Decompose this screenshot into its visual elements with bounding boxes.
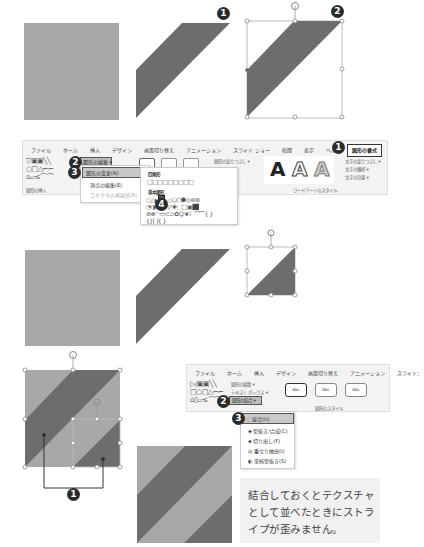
text-fill-button[interactable]: 文字の塗りつぶし ▾ — [345, 158, 381, 164]
shape-style-abc-3[interactable]: Abc — [345, 383, 367, 397]
tab-home-2[interactable]: ホーム — [221, 366, 248, 380]
tab-slideshow[interactable]: スライド ショー — [227, 143, 276, 157]
step-badge-1: 1 — [217, 7, 230, 20]
step-badge-2: 2 — [331, 5, 344, 18]
shape-styles-group-label: 図形のスタイル — [315, 405, 343, 411]
shape-gallery-flyout: 四角形 □□□□□□□□□ 基本図形 ○△◣▱⏢◇⬠⬡⯃◎⊚⊛ ◔◑▯▭⌐◸✚⬚… — [140, 167, 238, 225]
tab-transitions-2[interactable]: 画面切り替え — [302, 366, 344, 380]
wordart-gallery[interactable]: A A A — [264, 156, 334, 184]
text-outline-button[interactable]: 文字の輪郭 ▾ — [345, 166, 369, 172]
merge-shapes-dropdown: ◌ 接合(U) ◈ 型抜き/合成(C) ◈ 切り出し(F) ◎ 重なり抽出(I)… — [240, 411, 295, 469]
tab-review[interactable]: 校閲 — [276, 143, 298, 157]
rectangles-header: 四角形 — [148, 171, 160, 177]
text-box-button[interactable]: テキスト ボックス ▾ — [231, 389, 268, 395]
insert-shapes-group-label: 図形の挿入 — [26, 187, 46, 193]
shape-style-abc-1[interactable]: Abc — [285, 383, 307, 397]
composite-stripe-square[interactable] — [18, 350, 128, 500]
step-badge-3-union: 3 — [232, 412, 245, 425]
subtract-label: 単純型抜き(S) — [254, 458, 286, 464]
wordart-style-black[interactable]: A — [270, 157, 285, 181]
basic-shapes-row4[interactable]: {}[ ]{ } — [146, 217, 166, 225]
shape-style-abc-2[interactable]: Abc — [315, 383, 337, 397]
tab-animations-2[interactable]: アニメーション — [344, 366, 391, 380]
tab-shape-format[interactable]: 図形の書式 — [347, 144, 382, 157]
reroute-connectors-menu-item[interactable]: コネクタの再接続(R) — [87, 190, 137, 201]
caption-note: 結合しておくとテクスチャ として並べたときにストラ イプが歪みません。 — [240, 478, 380, 543]
stripe-parallelogram-shape-2 — [134, 246, 234, 348]
union-label: 接合(U) — [252, 416, 270, 422]
wordart-group-label: ワードアートのスタイル — [293, 187, 337, 193]
callout-badge-1: 1 — [67, 488, 80, 501]
step-badge-2-merge: 2 — [217, 395, 230, 408]
tab-transitions[interactable]: 画面切り替え — [138, 143, 180, 157]
tab-design[interactable]: デザイン — [106, 143, 138, 157]
selected-stripe-shape[interactable] — [240, 0, 350, 125]
ribbon-merge-shapes: ファイル ホーム 挿入 デザイン 画面切り替え アニメーション スライド： ▷∕… — [186, 364, 390, 412]
merged-stripe-result — [137, 446, 234, 543]
step-badge-1-tab: 1 — [332, 141, 345, 154]
tab-file-2[interactable]: ファイル — [189, 366, 221, 380]
caption-line-3: イプが歪みません。 — [248, 521, 374, 538]
intersect-label: 重なり抽出(I) — [254, 448, 284, 454]
wordart-style-outline[interactable]: A — [314, 157, 329, 181]
edit-shape-button-2[interactable]: 図形の編集 ▾ — [231, 381, 255, 387]
tab-file[interactable]: ファイル — [25, 143, 57, 157]
caption-line-1: 結合しておくとテクスチャ — [248, 487, 374, 504]
tab-view[interactable]: 表示 — [298, 143, 320, 157]
merge-shapes-label: 図形の結合 ▾ — [232, 398, 256, 403]
tab-insert-2[interactable]: 挿入 — [248, 366, 270, 380]
ribbon-tabs: ファイル ホーム 挿入 デザイン 画面切り替え アニメーション スライド ショー… — [25, 143, 382, 157]
caption-line-2: として並べたときにストラ — [248, 504, 374, 521]
change-shape-label: 図形の変更(N) — [86, 170, 119, 176]
tab-animations[interactable]: アニメーション — [180, 143, 227, 157]
ribbon2-tabs: ファイル ホーム 挿入 デザイン 画面切り替え アニメーション スライド： — [189, 366, 424, 380]
tab-insert[interactable]: 挿入 — [84, 143, 106, 157]
light-gray-square-2 — [25, 250, 120, 346]
rectangle-shapes-row[interactable]: □□□□□□□□□ — [147, 178, 194, 186]
wordart-style-gray[interactable]: A — [292, 157, 307, 181]
tab-slideshow-2[interactable]: スライド： — [391, 366, 424, 380]
tab-design-2[interactable]: デザイン — [270, 366, 302, 380]
light-gray-square — [24, 23, 119, 120]
fragment-label: 切り出し(F) — [253, 438, 280, 444]
step-badge-3-change: 3 — [68, 166, 81, 179]
tab-home[interactable]: ホーム — [57, 143, 84, 157]
change-shape-menu-item[interactable]: 図形の変更(N) › — [82, 167, 148, 178]
selected-right-triangle[interactable] — [240, 225, 300, 307]
subtract-menu-item[interactable]: ◐ 単純型抜き(S) — [245, 456, 286, 467]
combine-label: 型抜き/合成(C) — [253, 428, 287, 434]
text-effects-button[interactable]: 文字の効果 ▾ — [345, 174, 369, 180]
stripe-parallelogram-shape — [134, 20, 234, 122]
union-menu-item[interactable]: ◌ 接合(U) — [242, 413, 294, 424]
step-badge-4-triangle: 4 — [155, 198, 168, 211]
shape-fill-button[interactable]: 図形の塗りつぶし ▾ — [214, 158, 250, 164]
merge-shapes-button[interactable]: 図形の結合 ▾ — [229, 396, 262, 405]
insert-shapes-gallery[interactable]: ▽▣▣╲╲○□△⌐⌐⌂▱≤⌒⌒ — [26, 157, 53, 181]
